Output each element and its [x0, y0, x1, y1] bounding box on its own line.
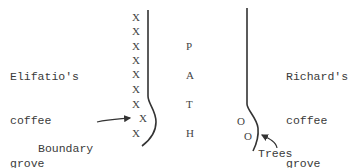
boundary-plant-marker: X: [132, 26, 140, 37]
right-grove-line-1: Richard's: [286, 70, 348, 85]
right-grove-line-2: coffee: [286, 114, 348, 129]
trees-label: Trees: [258, 147, 293, 162]
path-letter-p: P: [186, 41, 192, 52]
path-letter-a: A: [186, 70, 194, 81]
boundary-plant-marker: X: [132, 69, 140, 80]
left-grove-line-1: Elifatio's: [10, 70, 79, 85]
boundary-plant-marker: X: [132, 12, 140, 23]
boundary-plant-marker: X: [132, 41, 140, 52]
path-letter-h: H: [186, 128, 194, 139]
path-letter-t: T: [186, 99, 193, 110]
right-grove-line-3: grove: [286, 157, 348, 168]
right-grove-label: Richard's coffee grove: [286, 41, 348, 168]
boundary-plants-label: Boundary plants: [38, 113, 93, 168]
boundary-plant-marker: X: [132, 55, 140, 66]
left-boundary-line: [142, 10, 156, 146]
tree-marker: O: [244, 131, 252, 142]
boundary-plant-marker: X: [139, 113, 147, 124]
boundary-plant-marker: X: [132, 99, 140, 110]
boundary-label-line-1: Boundary: [38, 142, 93, 157]
boundary-plant-marker: X: [132, 84, 140, 95]
tree-marker: O: [237, 116, 245, 127]
boundary-plant-marker: X: [132, 128, 140, 139]
boundary-arrow: [97, 118, 130, 122]
